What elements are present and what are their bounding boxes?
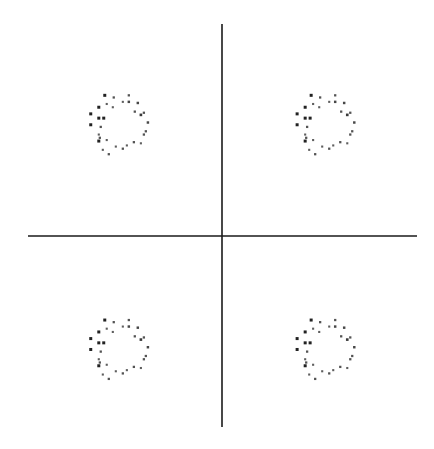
scatter-point [310, 319, 313, 322]
scatter-point [147, 121, 149, 123]
scatter-point [97, 106, 100, 109]
scatter-point [334, 94, 336, 96]
scatter-point [143, 133, 145, 135]
scatter-point [122, 148, 124, 150]
scatter-point [103, 319, 106, 322]
scatter-point [126, 144, 128, 146]
scatter-point [334, 319, 336, 321]
scatter-point [143, 358, 145, 360]
scatter-point [140, 114, 143, 117]
scatter-point [113, 96, 115, 98]
scatter-point [296, 348, 299, 351]
scatter-point [314, 153, 316, 155]
scatter-point [108, 378, 110, 380]
scatter-point [122, 372, 124, 374]
scatter-point [314, 378, 316, 380]
scatter-point [128, 101, 130, 103]
scatter-point [349, 133, 351, 135]
scatter-point [346, 367, 348, 369]
scatter-point [133, 141, 135, 143]
cluster-lower-left [89, 319, 149, 381]
scatter-point [97, 140, 100, 143]
scatter-point [147, 346, 149, 348]
scatter-point [99, 137, 101, 139]
scatter-point [106, 103, 108, 105]
scatter-point [305, 137, 307, 139]
scatter-point [145, 355, 147, 357]
scatter-point [349, 336, 351, 338]
scatter-point [100, 126, 102, 128]
scatter-point [134, 335, 136, 337]
scatter-point [343, 326, 345, 328]
scatter-point [145, 130, 147, 132]
scatter-point [134, 110, 136, 112]
scatter-point [128, 94, 130, 96]
scatter-point [328, 101, 330, 103]
cluster-upper-left [89, 94, 149, 156]
scatter-point [140, 142, 142, 144]
scatter-point [328, 372, 330, 374]
scatter-point [339, 366, 341, 368]
scatter-point [353, 346, 355, 348]
scatter-point [349, 112, 351, 114]
scatter-point [97, 341, 100, 344]
scatter-point [99, 361, 101, 363]
scatter-point [334, 325, 336, 327]
scatter-point [332, 369, 334, 371]
scatter-point [343, 102, 345, 104]
scatter-point [108, 153, 110, 155]
scatter-point [106, 364, 108, 366]
scatter-point [140, 338, 143, 341]
scatter-point [318, 331, 320, 333]
scatter-point [133, 366, 135, 368]
scatter-point [89, 112, 92, 115]
cluster-upper-right [296, 94, 356, 156]
scatter-point [304, 358, 306, 360]
scatter-point [351, 130, 353, 132]
scatter-point [304, 117, 307, 120]
scatter-point [113, 321, 115, 323]
scatter-point [312, 139, 314, 141]
scatter-point [102, 373, 104, 375]
scatter-point [296, 337, 299, 340]
scatter-point [112, 106, 114, 108]
scatter-point [89, 348, 92, 351]
scatter-point [296, 112, 299, 115]
scatter-point [304, 330, 307, 333]
scatter-point [339, 141, 341, 143]
scatter-point [98, 134, 100, 136]
scatter-point [328, 326, 330, 328]
scatter-point [305, 361, 307, 363]
scatter-point [318, 106, 320, 108]
scatter-point [89, 123, 92, 126]
cluster-lower-right [296, 319, 356, 381]
scatter-point [319, 321, 321, 323]
scatter-point [98, 358, 100, 360]
scatter-point [334, 101, 336, 103]
constellation-plot [0, 0, 434, 449]
scatter-point [137, 102, 139, 104]
scatter-point [126, 369, 128, 371]
scatter-point [321, 146, 323, 148]
scatter-point [304, 364, 307, 367]
scatter-point [102, 149, 104, 151]
scatter-point [140, 367, 142, 369]
scatter-point [308, 373, 310, 375]
scatter-point [312, 364, 314, 366]
scatter-point [143, 112, 145, 114]
scatter-point [137, 326, 139, 328]
scatter-point [143, 336, 145, 338]
scatter-point [332, 144, 334, 146]
scatter-point [346, 338, 349, 341]
scatter-point [321, 370, 323, 372]
scatter-point [296, 123, 299, 126]
scatter-point [106, 328, 108, 330]
scatter-point [340, 335, 342, 337]
scatter-point [328, 148, 330, 150]
scatter-point [97, 117, 100, 120]
scatter-point [100, 350, 102, 352]
scatter-point [351, 355, 353, 357]
scatter-point [103, 94, 106, 97]
scatter-point [122, 101, 124, 103]
scatter-point [306, 126, 308, 128]
